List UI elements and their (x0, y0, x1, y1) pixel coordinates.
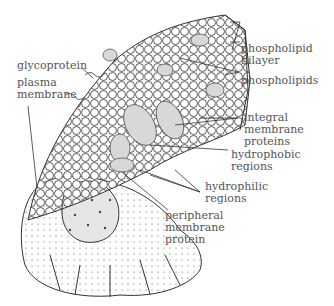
peripheral-protein (110, 158, 134, 172)
label-phospholipid-bilayer-2: bilayer (241, 55, 280, 67)
label-plasma-membrane-2: membrane (17, 89, 77, 101)
label-peripheral-protein-3: protein (165, 234, 205, 246)
label-hydrophobic-2: regions (231, 161, 273, 173)
label-integral-proteins-3: proteins (244, 136, 290, 148)
label-phospholipids: phospholipids (241, 75, 318, 87)
label-hydrophilic-2: regions (205, 193, 247, 205)
label-glycoprotein: glycoprotein (17, 60, 87, 72)
